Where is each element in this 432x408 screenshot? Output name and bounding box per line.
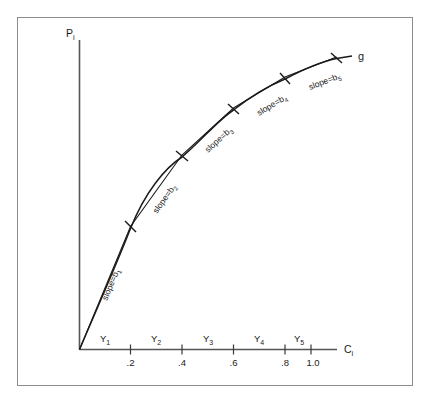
interval-label-5: Y5: [294, 333, 304, 346]
y-axis-label-text: P: [66, 27, 73, 39]
curve-g-label: g: [358, 50, 364, 62]
interval-label-3: Y3: [203, 333, 213, 346]
interval-label-4-sub: 4: [260, 339, 264, 346]
piecewise-chord-polyline: [80, 57, 337, 350]
interval-label-1-sub: 1: [106, 339, 110, 346]
figure-container: .2 .4 .6 .8 1.0 Y1 Y2 Y3 Y4 Y5: [0, 0, 432, 408]
y-axis-label-sub: i: [73, 33, 75, 42]
curve-g: [80, 56, 353, 350]
slope-label-4: slope=b4: [255, 92, 290, 119]
slope-label-5: slope=b5: [307, 70, 343, 93]
x-tick-label-3: .8: [281, 357, 289, 368]
interval-label-2-sub: 2: [157, 339, 161, 346]
slope-label-1: slope=b1: [100, 267, 124, 303]
x-axis-label-sub: i: [352, 349, 354, 358]
slope-label-3: slope=b3: [203, 124, 236, 155]
svg-text:Y3: Y3: [203, 333, 213, 346]
interval-label-1: Y1: [100, 333, 110, 346]
x-tick-label-2: .6: [230, 357, 238, 368]
svg-text:Y5: Y5: [294, 333, 304, 346]
x-tick-label-0: .2: [127, 357, 135, 368]
interval-label-2: Y2: [151, 333, 161, 346]
slope-label-4-text: slope=b: [255, 94, 286, 118]
x-tick-label-1: .4: [178, 357, 186, 368]
plot-area: .2 .4 .6 .8 1.0 Y1 Y2 Y3 Y4 Y5: [0, 0, 432, 408]
interval-label-3-sub: 3: [209, 339, 213, 346]
slope-label-2: slope=b2: [150, 182, 179, 216]
x-tick-label-4: 1.0: [306, 357, 319, 368]
svg-text:Y2: Y2: [151, 333, 161, 346]
interval-label-4: Y4: [254, 333, 264, 346]
svg-text:Y1: Y1: [100, 333, 110, 346]
svg-text:Y4: Y4: [254, 333, 264, 346]
slope-label-5-text: slope=b: [307, 72, 339, 92]
interval-label-5-sub: 5: [300, 339, 304, 346]
slope-label-1-text: slope=b: [100, 270, 121, 302]
x-axis-label: Ci: [344, 343, 354, 358]
y-axis-label: Pi: [66, 27, 75, 42]
